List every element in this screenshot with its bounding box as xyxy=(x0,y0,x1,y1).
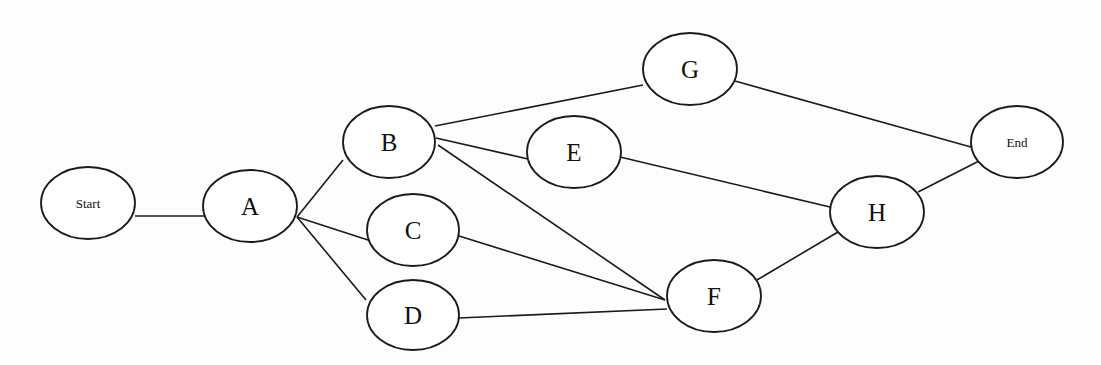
node-label: Start xyxy=(76,196,101,211)
node-e: E xyxy=(527,116,621,188)
node-label: F xyxy=(707,283,721,310)
edge-d-f xyxy=(459,309,667,318)
node-b: B xyxy=(343,106,435,178)
edge-b-g xyxy=(435,85,643,126)
node-label: C xyxy=(405,217,422,244)
node-start: Start xyxy=(41,167,135,239)
edge-e-h xyxy=(620,157,830,207)
nodes-layer: StartABCDEFGHEnd xyxy=(41,33,1063,350)
node-f: F xyxy=(667,260,761,332)
node-label: H xyxy=(868,199,886,226)
edge-g-end xyxy=(735,81,971,147)
node-label: G xyxy=(681,56,699,83)
edge-f-h xyxy=(757,232,838,280)
edge-b-e xyxy=(436,138,528,159)
edge-c-f xyxy=(459,236,665,300)
network-diagram: StartABCDEFGHEnd xyxy=(0,0,1101,365)
node-d: D xyxy=(367,280,459,350)
edge-a-c xyxy=(297,217,368,240)
edge-h-end xyxy=(918,161,979,192)
node-label: D xyxy=(404,302,422,329)
edge-a-d xyxy=(297,217,366,300)
node-label: A xyxy=(241,193,259,220)
node-label: End xyxy=(1007,135,1028,150)
edge-a-b xyxy=(297,160,343,217)
node-c: C xyxy=(367,194,459,266)
node-label: B xyxy=(381,129,398,156)
node-end: End xyxy=(971,106,1063,178)
node-h: H xyxy=(830,176,924,248)
node-a: A xyxy=(203,170,297,242)
node-g: G xyxy=(643,33,737,105)
node-label: E xyxy=(566,139,581,166)
